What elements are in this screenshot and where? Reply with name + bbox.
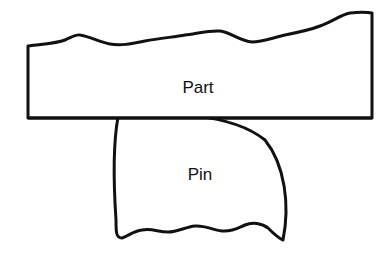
pin-label: Pin bbox=[188, 165, 213, 184]
diagram-canvas: Part Pin bbox=[0, 0, 378, 257]
part-label: Part bbox=[182, 78, 213, 97]
part-shape bbox=[28, 12, 372, 118]
